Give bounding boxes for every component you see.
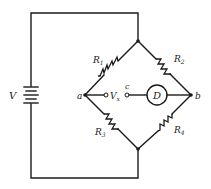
r1-label: R1: [92, 55, 104, 66]
source-voltage-label: V: [9, 90, 18, 101]
node-a-label: a: [77, 91, 82, 101]
r2-label: R2: [173, 54, 185, 65]
battery-icon: [24, 87, 38, 103]
detector-branch: [85, 85, 191, 105]
wheatstone-bridge-diagram: V a b c Vx D R1 R2 R3: [0, 0, 211, 189]
r3-label: R3: [94, 127, 106, 138]
r4-label: R4: [173, 125, 185, 136]
resistor-r3: [85, 95, 138, 149]
resistor-r2: [138, 41, 191, 95]
vx-label: Vx: [110, 91, 121, 102]
node-b-label: b: [195, 91, 201, 101]
resistor-r4: [138, 95, 191, 149]
top-junction: [136, 39, 140, 43]
bottom-junction: [136, 147, 140, 151]
resistor-r1: [85, 41, 138, 95]
detector-label: D: [152, 90, 161, 101]
terminal-left: [104, 93, 108, 97]
node-c-label: c: [125, 82, 130, 91]
